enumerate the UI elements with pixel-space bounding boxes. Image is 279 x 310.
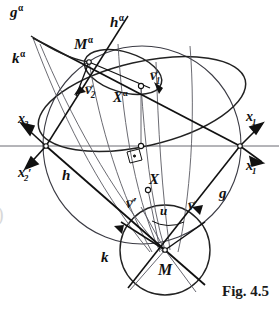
- vector-label-v: →v: [188, 198, 195, 213]
- label-x1-prime: x1′: [246, 159, 260, 175]
- construction-arc-left-2: [40, 44, 163, 252]
- vector-label-v-prime: →v′: [126, 196, 137, 211]
- label-x2-prime: x2′: [18, 166, 32, 182]
- label-g-alpha: gα: [10, 4, 23, 20]
- point-x: [145, 187, 150, 192]
- vector-label-v1: →v1: [150, 68, 160, 86]
- vector-label-v2: →v2: [85, 82, 95, 100]
- label-x1: x1: [246, 110, 256, 126]
- point-x-alpha: [138, 83, 143, 88]
- page-bleed-artifact: ): [0, 203, 4, 226]
- point-axis-foot: [138, 143, 143, 148]
- point-m: [163, 248, 168, 253]
- label-h-line: h: [62, 168, 70, 183]
- label-M-point: M: [158, 262, 172, 278]
- label-x2: x2: [18, 112, 28, 128]
- label-g-line: g: [219, 186, 227, 201]
- geometry-figure: [0, 0, 279, 310]
- label-u-angle: u: [160, 204, 167, 217]
- label-k-alpha: kα: [12, 50, 25, 66]
- point-x2-vertex: [44, 144, 49, 149]
- ray-m-2: [165, 222, 205, 250]
- point-x1-vertex: [238, 144, 243, 149]
- vector-arrowheads: [74, 82, 203, 234]
- label-h-alpha: hα: [110, 14, 124, 30]
- right-angle-marker: [127, 149, 142, 163]
- label-k-circle: k: [101, 250, 109, 265]
- point-m-alpha: [87, 60, 92, 65]
- label-X-alpha: Xα: [113, 89, 128, 105]
- point-markers: [44, 60, 243, 253]
- figure-caption: Fig. 4.5: [222, 283, 269, 300]
- label-M-alpha: Mα: [74, 36, 93, 52]
- label-X-point: X: [149, 172, 159, 187]
